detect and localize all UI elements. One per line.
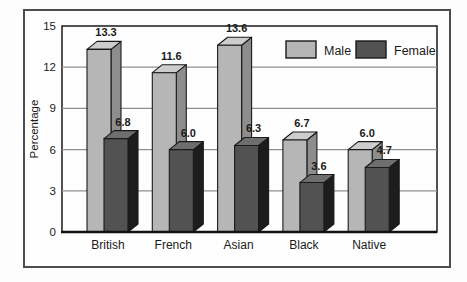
y-tick-label: 12 — [43, 61, 56, 73]
female-bar-native — [365, 159, 399, 232]
female-bar-black-side — [324, 175, 334, 232]
y-tick-label: 6 — [50, 144, 56, 156]
bar-chart: 03691215Percentage13.36.8British11.66.0F… — [0, 0, 467, 282]
female-bar-french — [169, 142, 203, 232]
male-value-label-black: 6.7 — [294, 117, 309, 129]
female-bar-asian-side — [259, 137, 269, 232]
x-category-label-black: Black — [289, 238, 319, 252]
male-value-label-french: 11.6 — [161, 50, 182, 62]
male-value-label-british: 13.3 — [95, 26, 116, 38]
y-axis-title: Percentage — [28, 100, 40, 159]
female-value-label-british: 6.8 — [115, 116, 130, 128]
legend-swatch-male — [286, 41, 316, 58]
y-tick-label: 15 — [43, 20, 56, 32]
female-bar-black — [300, 175, 334, 232]
x-category-label-native: Native — [352, 238, 386, 252]
legend-swatch-female — [356, 41, 386, 58]
x-category-label-british: British — [91, 238, 124, 252]
female-bar-black-front — [300, 183, 324, 232]
male-value-label-native: 6.0 — [360, 127, 375, 139]
female-value-label-black: 3.6 — [311, 160, 326, 172]
female-bar-french-front — [169, 150, 193, 232]
y-axis: 03691215 — [43, 20, 56, 238]
legend-item-female: Female — [356, 41, 436, 58]
female-bar-asian — [235, 137, 269, 232]
female-bar-british — [104, 131, 138, 232]
x-category-label-french: French — [155, 238, 192, 252]
female-value-label-french: 6.0 — [181, 127, 196, 139]
female-bar-british-side — [128, 131, 138, 232]
female-bar-french-side — [193, 142, 203, 232]
male-value-label-asian: 13.6 — [226, 22, 247, 34]
legend: MaleFemale — [286, 41, 436, 58]
y-tick-label: 0 — [50, 226, 56, 238]
legend-label-male: Male — [324, 44, 351, 58]
female-bar-native-side — [389, 159, 399, 232]
female-bar-british-front — [104, 139, 128, 232]
female-value-label-native: 4.7 — [377, 144, 392, 156]
y-tick-label: 9 — [50, 102, 56, 114]
legend-label-female: Female — [394, 44, 436, 58]
female-value-label-asian: 6.3 — [246, 122, 261, 134]
female-bar-native-front — [365, 167, 389, 232]
x-category-label-asian: Asian — [224, 238, 254, 252]
female-bar-asian-front — [235, 145, 259, 232]
y-tick-label: 3 — [50, 185, 56, 197]
